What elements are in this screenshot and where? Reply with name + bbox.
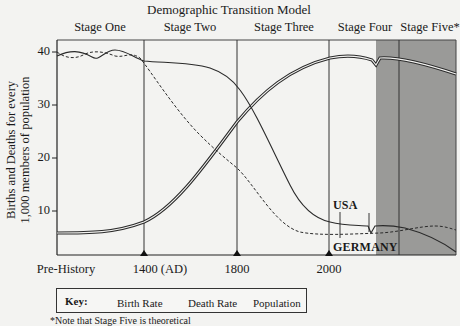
tick-marker-1400 [140,250,148,256]
usa-annotation: USA [333,198,358,213]
germany-annotation: GERMANY [333,240,398,255]
x-tick-2000: 2000 [317,262,342,277]
legend-title: Key: [65,295,88,307]
tick-marker-2000 [325,250,333,256]
footnote: *Note that Stage Five is theoretical [50,315,191,326]
legend-population: Population [253,297,297,309]
shaded-stage-five-region [376,40,456,255]
x-tick-prehistory: Pre-History [37,262,95,277]
legend-death-rate: Death Rate [188,297,230,309]
legend: Key: Birth Rate Death Rate Population [56,288,307,313]
x-tick-1400: 1400 (AD) [133,262,188,277]
x-tick-1800: 1800 [225,262,250,277]
legend-birth-rate: Birth Rate [117,297,157,309]
tick-marker-1800 [233,250,241,256]
